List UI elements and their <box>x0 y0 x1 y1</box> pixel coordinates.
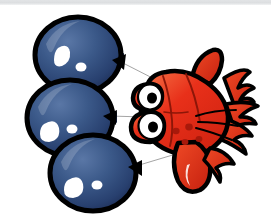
fish-and-balloons-figure: Fish and balloons clipart diagram A red … <box>0 0 271 223</box>
fish-eye-upper <box>138 85 162 110</box>
fish-lower-fin <box>174 142 210 192</box>
clipart-scene: Fish and balloons clipart diagram A red … <box>0 0 271 223</box>
artboard: Fish and balloons clipart diagram A red … <box>0 0 271 223</box>
balloon-bottom-highlight-dot <box>92 181 103 190</box>
balloon-top-highlight-dot <box>76 63 87 72</box>
red-fish <box>131 50 258 192</box>
fish-eye-lower <box>139 113 164 139</box>
balloon-bottom-body <box>50 135 136 211</box>
balloon-middle-highlight-dot <box>67 125 78 134</box>
fish-eye-upper-pupil <box>147 93 157 104</box>
fish-eye-lower-pupil <box>148 122 158 133</box>
balloon-bottom <box>50 135 140 211</box>
